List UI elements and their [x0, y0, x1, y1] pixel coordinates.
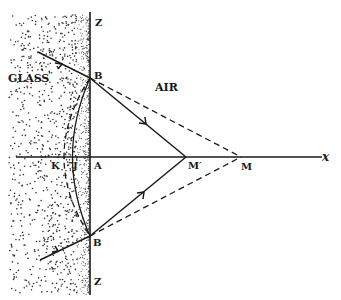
point-label-b-top: B: [94, 70, 102, 81]
point-label-z-top: Z: [95, 17, 102, 28]
optics-diagram: GLASS AIR Z Z B B K J A M′ M x: [0, 0, 341, 300]
point-label-a: A: [93, 160, 102, 171]
region-label-glass: GLASS: [8, 72, 49, 85]
point-label-b-bottom: B: [93, 237, 101, 248]
glass-stipple: [8, 14, 89, 295]
refracted-ray-bottom: [90, 157, 186, 236]
region-label-air: AIR: [154, 81, 179, 94]
point-label-j: J: [72, 160, 78, 171]
point-label-z-bottom: Z: [94, 276, 101, 287]
arrow-icon: [55, 63, 62, 69]
point-label-k: K: [51, 160, 60, 171]
point-label-m: M: [241, 161, 252, 172]
dashed-ray-bottom: [90, 157, 241, 236]
axis-label-x: x: [321, 150, 330, 164]
point-label-m-prime: M′: [188, 160, 202, 171]
